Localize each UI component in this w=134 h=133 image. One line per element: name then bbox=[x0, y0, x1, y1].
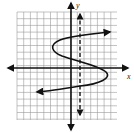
grid-lines bbox=[17, 12, 117, 120]
y-axis-label: y bbox=[75, 1, 80, 10]
graph-canvas: x y bbox=[0, 0, 134, 133]
x-axis-label: x bbox=[126, 72, 131, 81]
s-curve bbox=[37, 32, 110, 92]
